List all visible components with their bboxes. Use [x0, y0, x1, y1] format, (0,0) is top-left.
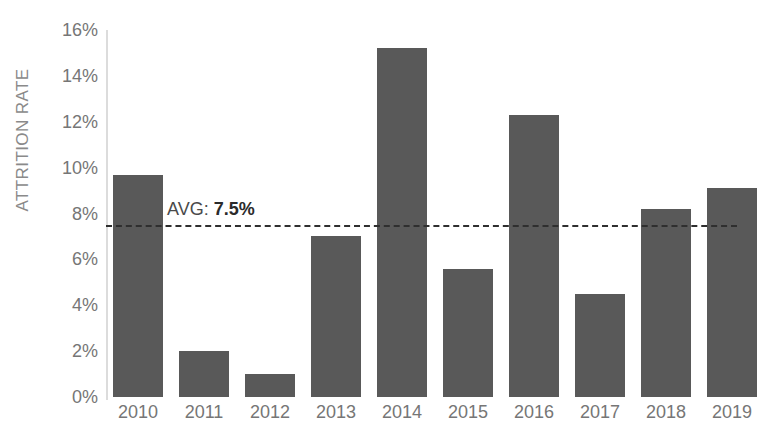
average-label-value: 7.5%	[214, 199, 255, 219]
y-tick-label: 16%	[2, 20, 98, 41]
x-tick-label: 2019	[692, 402, 771, 423]
y-tick-label: 6%	[2, 249, 98, 270]
bar[interactable]	[311, 236, 361, 397]
bar[interactable]	[113, 175, 163, 397]
bar[interactable]	[377, 48, 427, 397]
y-tick-label: 14%	[2, 65, 98, 86]
bar[interactable]	[641, 209, 691, 397]
bar[interactable]	[509, 115, 559, 397]
y-axis-tick-labels: 0%2%4%6%8%10%12%14%16%	[0, 0, 98, 447]
attrition-rate-bar-chart: Attrition rate over time ATTRITION RATE …	[0, 0, 771, 447]
average-label-prefix: AVG:	[167, 199, 214, 219]
bar[interactable]	[179, 351, 229, 397]
y-tick-label: 12%	[2, 111, 98, 132]
y-tick-label: 8%	[2, 203, 98, 224]
bar[interactable]	[245, 374, 295, 397]
y-tick-label: 10%	[2, 157, 98, 178]
y-tick-label: 2%	[2, 341, 98, 362]
y-tick-label: 4%	[2, 295, 98, 316]
bar[interactable]	[443, 269, 493, 397]
bar[interactable]	[707, 188, 757, 397]
y-tick-label: 0%	[2, 387, 98, 408]
average-reference-label: AVG: 7.5%	[167, 199, 255, 220]
average-reference-line	[106, 225, 737, 227]
bar[interactable]	[575, 294, 625, 397]
x-axis-tick-labels: 2010201120122013201420152016201720182019	[106, 402, 771, 438]
